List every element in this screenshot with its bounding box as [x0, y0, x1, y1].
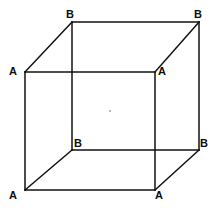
cube-wireframe-svg — [0, 0, 216, 210]
center-dot — [109, 110, 111, 112]
vertex-label-back-top-left: B — [66, 9, 74, 20]
cube-edge-connect-bottom-right — [155, 150, 199, 190]
vertex-label-front-bottom-left: A — [9, 190, 17, 201]
cube-edge-connect-top-left — [25, 22, 72, 72]
vertex-label-back-top-right: B — [194, 9, 202, 20]
vertex-label-back-bottom-left: B — [74, 138, 82, 149]
vertex-label-front-top-left: A — [9, 66, 17, 77]
vertex-label-front-top-right: A — [158, 66, 166, 77]
cube-edge-connect-bottom-left — [25, 150, 72, 190]
vertex-label-back-bottom-right: B — [200, 138, 208, 149]
cube-diagram: AAAABBBB — [0, 0, 216, 210]
cube-edges-group — [25, 22, 199, 190]
center-marker-group — [109, 110, 111, 112]
vertex-label-front-bottom-right: A — [155, 190, 163, 201]
